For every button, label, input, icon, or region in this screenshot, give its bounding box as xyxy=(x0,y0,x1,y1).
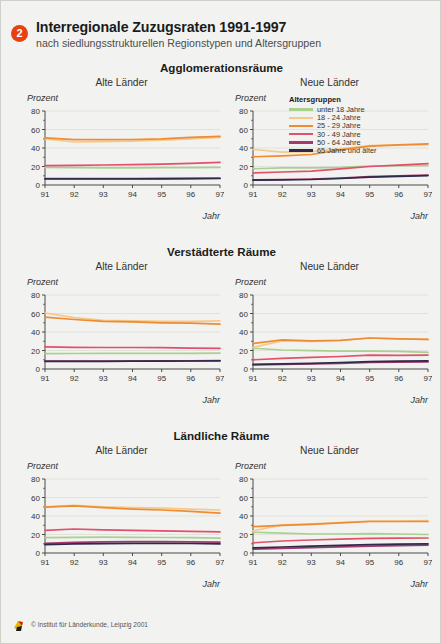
svg-text:91: 91 xyxy=(41,374,50,383)
svg-text:95: 95 xyxy=(365,558,374,567)
svg-text:96: 96 xyxy=(394,374,403,383)
svg-text:40: 40 xyxy=(31,512,40,521)
panel-title: Neue Länder xyxy=(227,445,432,456)
chart-block-title: Agglomerationsräume xyxy=(1,61,441,74)
svg-text:95: 95 xyxy=(157,374,166,383)
legend-item-label: 65 Jahre und älter xyxy=(317,146,377,155)
chart-panel-right: Neue LänderProzent0204060809192939495969… xyxy=(227,445,432,575)
svg-text:96: 96 xyxy=(186,558,195,567)
svg-text:0: 0 xyxy=(244,549,249,558)
svg-text:80: 80 xyxy=(31,475,40,484)
svg-text:96: 96 xyxy=(394,558,403,567)
x-axis-label: Jahr xyxy=(410,211,428,221)
legend-swatch-icon xyxy=(289,117,313,119)
svg-text:94: 94 xyxy=(336,190,345,199)
legend-swatch-icon xyxy=(289,108,313,110)
panel-title: Neue Länder xyxy=(227,261,432,272)
x-axis-label: Jahr xyxy=(410,395,428,405)
svg-text:94: 94 xyxy=(336,558,345,567)
svg-text:95: 95 xyxy=(157,558,166,567)
x-axis-label: Jahr xyxy=(202,579,220,589)
svg-text:40: 40 xyxy=(31,328,40,337)
panel-title: Alte Länder xyxy=(19,261,224,272)
svg-text:80: 80 xyxy=(239,291,248,300)
svg-text:40: 40 xyxy=(239,512,248,521)
y-axis-label: Prozent xyxy=(27,461,58,471)
svg-text:60: 60 xyxy=(239,126,248,135)
y-axis-label: Prozent xyxy=(27,93,58,103)
chart-block-1: Verstädterte RäumeAlte LänderProzent0204… xyxy=(1,245,441,420)
svg-text:80: 80 xyxy=(239,475,248,484)
svg-text:97: 97 xyxy=(424,190,432,199)
legend-swatch-icon xyxy=(289,133,313,135)
svg-text:92: 92 xyxy=(278,558,287,567)
legend-swatch-icon xyxy=(289,125,313,127)
y-axis-label: Prozent xyxy=(235,93,266,103)
panel-title: Alte Länder xyxy=(19,77,224,88)
svg-text:97: 97 xyxy=(424,558,432,567)
svg-text:60: 60 xyxy=(31,494,40,503)
svg-text:91: 91 xyxy=(249,374,258,383)
svg-text:80: 80 xyxy=(31,291,40,300)
x-axis-label: Jahr xyxy=(410,579,428,589)
svg-text:96: 96 xyxy=(186,374,195,383)
plot-area: 02040608091929394959697 xyxy=(227,289,432,389)
svg-text:91: 91 xyxy=(41,190,50,199)
svg-text:92: 92 xyxy=(70,190,79,199)
svg-text:40: 40 xyxy=(239,328,248,337)
plot-area: 02040608091929394959697 xyxy=(19,289,224,389)
svg-text:93: 93 xyxy=(307,558,316,567)
svg-text:0: 0 xyxy=(244,365,249,374)
y-axis-label: Prozent xyxy=(27,277,58,287)
page-header: 2 Interregionale Zuzugsraten 1991-1997 n… xyxy=(1,19,441,67)
legend-swatch-icon xyxy=(289,149,313,151)
svg-text:20: 20 xyxy=(31,163,40,172)
panel-title: Neue Länder xyxy=(227,77,432,88)
footer: © Institut für Länderkunde, Leipzig 2001 xyxy=(13,618,148,631)
svg-text:0: 0 xyxy=(36,365,41,374)
y-axis-label: Prozent xyxy=(235,461,266,471)
legend-swatch-icon xyxy=(289,141,313,143)
svg-text:80: 80 xyxy=(31,107,40,116)
chart-page: 2 Interregionale Zuzugsraten 1991-1997 n… xyxy=(0,0,441,644)
svg-text:97: 97 xyxy=(216,558,224,567)
institute-logo-icon xyxy=(13,618,26,631)
svg-text:93: 93 xyxy=(307,190,316,199)
svg-text:95: 95 xyxy=(157,190,166,199)
svg-text:92: 92 xyxy=(278,190,287,199)
svg-text:20: 20 xyxy=(239,163,248,172)
x-axis-label: Jahr xyxy=(202,395,220,405)
chart-panel-right: Neue LänderProzent0204060809192939495969… xyxy=(227,77,432,207)
svg-text:91: 91 xyxy=(41,558,50,567)
svg-text:95: 95 xyxy=(365,374,374,383)
svg-text:93: 93 xyxy=(99,374,108,383)
svg-text:94: 94 xyxy=(128,190,137,199)
svg-text:92: 92 xyxy=(278,374,287,383)
y-axis-label: Prozent xyxy=(235,277,266,287)
svg-text:60: 60 xyxy=(31,126,40,135)
page-subtitle: nach siedlungsstrukturellen Regionstypen… xyxy=(36,37,321,49)
svg-text:94: 94 xyxy=(336,374,345,383)
plot-area: 02040608091929394959697 xyxy=(19,473,224,573)
svg-text:94: 94 xyxy=(128,374,137,383)
panel-title: Alte Länder xyxy=(19,445,224,456)
chart-panel-left: Alte LänderProzent0204060809192939495969… xyxy=(19,261,224,391)
svg-text:20: 20 xyxy=(239,347,248,356)
svg-text:92: 92 xyxy=(70,374,79,383)
chart-block-0: AgglomerationsräumeAlte LänderProzent020… xyxy=(1,61,441,236)
svg-text:92: 92 xyxy=(70,558,79,567)
chart-panel-right: Neue LänderProzent0204060809192939495969… xyxy=(227,261,432,391)
svg-text:0: 0 xyxy=(244,181,249,190)
legend: Altersgruppenunter 18 Jahre18 - 24 Jahre… xyxy=(289,95,377,155)
svg-text:40: 40 xyxy=(239,144,248,153)
svg-text:91: 91 xyxy=(249,190,258,199)
legend-item-5: 65 Jahre und älter xyxy=(289,146,377,154)
svg-text:97: 97 xyxy=(216,374,224,383)
svg-text:93: 93 xyxy=(307,374,316,383)
svg-text:95: 95 xyxy=(365,190,374,199)
svg-text:94: 94 xyxy=(128,558,137,567)
plot-area: 02040608091929394959697 xyxy=(227,473,432,573)
svg-text:20: 20 xyxy=(239,531,248,540)
svg-text:97: 97 xyxy=(424,374,432,383)
chart-block-title: Verstädterte Räume xyxy=(1,245,441,258)
